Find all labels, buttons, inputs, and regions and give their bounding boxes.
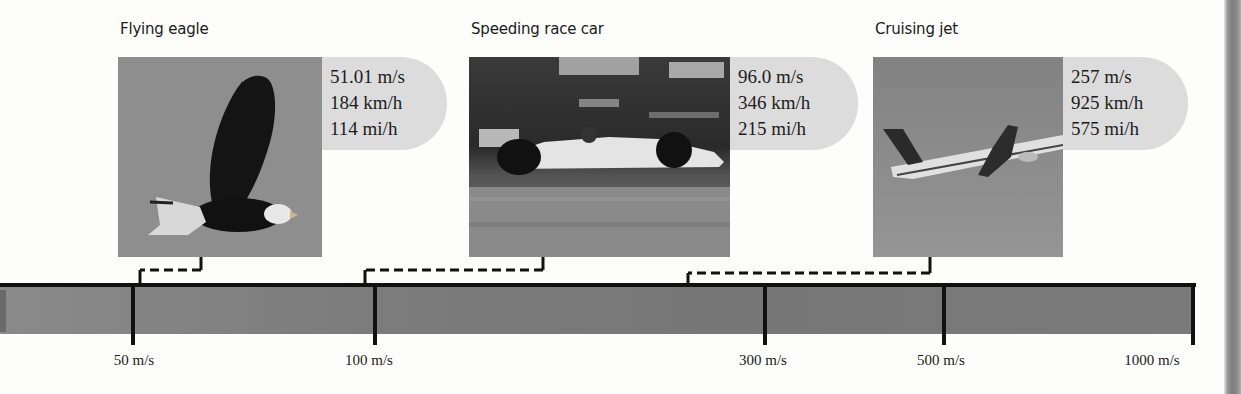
scale-bar-top-line	[0, 283, 1196, 287]
tick-300	[763, 285, 767, 345]
jet-connector	[688, 257, 930, 284]
speed-scale-bar	[0, 287, 1193, 334]
tick-500	[942, 285, 946, 345]
dashed-connectors	[0, 0, 1241, 394]
tick-50	[131, 285, 135, 345]
tick-1000	[1191, 285, 1195, 345]
tick-label-1000: 1000 m/s	[1124, 352, 1179, 369]
page-edge	[1224, 0, 1241, 394]
eagle-connector	[140, 257, 201, 284]
tick-label-50: 50 m/s	[114, 352, 154, 369]
tick-label-300: 300 m/s	[739, 352, 787, 369]
tick-label-500: 500 m/s	[917, 352, 965, 369]
tick-100	[373, 285, 377, 345]
tick-label-100: 100 m/s	[345, 352, 393, 369]
race-car-connector	[365, 257, 543, 284]
scale-bar-left-edge	[0, 290, 6, 332]
